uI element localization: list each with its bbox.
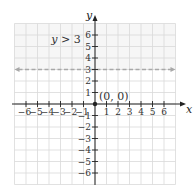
y-tick-label: 4 — [85, 53, 91, 63]
x-tick-label: 1 — [104, 107, 110, 117]
x-tick-label: 3 — [127, 107, 133, 117]
y-tick-label: −2 — [78, 122, 91, 132]
y-tick-label: −5 — [78, 157, 92, 167]
x-tick-label: 4 — [138, 107, 144, 117]
y-tick-label: −3 — [78, 134, 92, 144]
origin-label: (0, 0) — [99, 90, 129, 103]
inequality-label: y > 3 — [50, 33, 80, 46]
y-tick-label: −1 — [78, 111, 91, 121]
origin-point — [93, 102, 97, 106]
x-tick-label: 5 — [150, 107, 156, 117]
y-tick-label: 5 — [85, 42, 91, 52]
y-tick-label: 6 — [85, 30, 91, 40]
y-tick-label: 2 — [85, 76, 91, 86]
x-tick-label: 6 — [161, 107, 167, 117]
y-tick-label: 1 — [85, 88, 91, 98]
x-tick-label: 2 — [115, 107, 121, 117]
y-tick-label: 3 — [85, 65, 91, 75]
y-tick-label: −6 — [78, 168, 92, 178]
x-axis-label: x — [186, 103, 193, 116]
coordinate-plane-graph: −6−5−4−3−2−1123456654321−1−2−3−4−5−6 x y… — [0, 0, 195, 193]
y-axis-label: y — [85, 9, 93, 22]
y-tick-label: −4 — [78, 145, 92, 155]
